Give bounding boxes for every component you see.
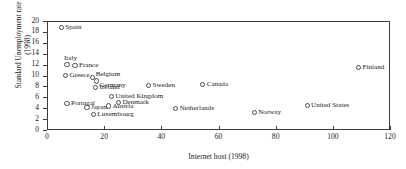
data-point-label: Greece	[70, 71, 90, 79]
y-tick-label: 18	[9, 26, 39, 35]
data-point-marker	[64, 62, 69, 67]
scatter-plot-figure: Standard Unemployment rate (1998) 024681…	[0, 0, 406, 169]
data-point-marker	[59, 25, 64, 30]
data-point-marker	[252, 110, 257, 115]
x-tick-label: 20	[89, 132, 119, 141]
y-tick-label: 16	[9, 37, 39, 46]
y-tick-mark	[43, 108, 47, 109]
y-tick-mark	[43, 32, 47, 33]
y-tick-mark	[43, 43, 47, 44]
x-tick-mark	[333, 126, 334, 130]
y-tick-mark	[43, 76, 47, 77]
data-point-marker	[305, 103, 310, 108]
data-point-marker	[72, 63, 77, 68]
x-tick-mark	[47, 126, 48, 130]
y-tick-label: 10	[9, 70, 39, 79]
data-point-label: Austria	[112, 102, 133, 110]
x-tick-mark	[276, 126, 277, 130]
data-point-marker	[94, 78, 99, 83]
data-point-label: Netherlands	[180, 104, 214, 112]
x-tick-label: 100	[318, 132, 348, 141]
data-point-label: Spain	[65, 23, 81, 31]
x-tick-mark	[390, 126, 391, 130]
data-point-label: Belgium	[96, 70, 120, 78]
y-tick-label: 6	[9, 92, 39, 101]
x-tick-label: 80	[261, 132, 291, 141]
y-tick-mark	[43, 21, 47, 22]
data-point-marker	[84, 105, 89, 110]
y-tick-mark	[43, 65, 47, 66]
data-point-marker	[109, 94, 114, 99]
y-tick-mark	[43, 130, 47, 131]
data-point-label: Sweden	[152, 81, 174, 89]
data-point-marker	[173, 106, 178, 111]
y-tick-mark	[43, 119, 47, 120]
y-tick-label: 20	[9, 16, 39, 25]
y-tick-label: 2	[9, 114, 39, 123]
y-tick-label: 4	[9, 103, 39, 112]
scan-artifact	[198, 2, 207, 10]
y-tick-label: 8	[9, 81, 39, 90]
data-point-label: Norway	[258, 108, 281, 116]
x-tick-mark	[104, 126, 105, 130]
data-point-label: Luxembourg	[97, 110, 134, 118]
x-tick-mark	[161, 126, 162, 130]
y-tick-label: 12	[9, 59, 39, 68]
x-tick-label: 60	[204, 132, 234, 141]
data-point-label: Ireland	[100, 83, 120, 91]
y-tick-mark	[43, 54, 47, 55]
x-tick-label: 0	[32, 132, 62, 141]
data-point-label: Canada	[207, 80, 228, 88]
data-point-label: Finland	[363, 63, 385, 71]
y-tick-mark	[43, 97, 47, 98]
x-tick-mark	[219, 126, 220, 130]
x-axis-title: Internet host (1998)	[47, 152, 390, 161]
y-tick-label: 14	[9, 48, 39, 57]
data-point-marker	[64, 101, 69, 106]
data-point-label: France	[79, 61, 98, 69]
x-tick-label: 120	[375, 132, 405, 141]
data-point-marker	[146, 83, 151, 88]
x-tick-label: 40	[146, 132, 176, 141]
y-tick-mark	[43, 86, 47, 87]
data-point-label: Italy	[64, 54, 77, 62]
data-point-label: United States	[311, 101, 349, 109]
